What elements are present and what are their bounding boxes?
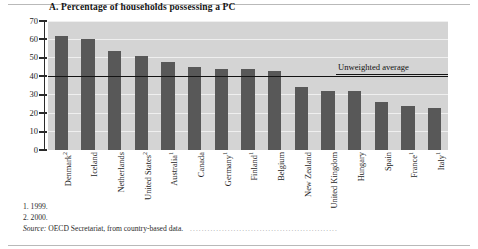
footnote-1: 1. 1999. (23, 202, 463, 213)
bar (321, 91, 335, 150)
source-text: OECD Secretariat, from country-based dat… (48, 224, 183, 233)
y-axis-tick-label: 50 (12, 53, 38, 62)
x-axis-tick-label: Australia1 (171, 152, 179, 186)
x-axis-tick-label: Iceland (91, 152, 99, 177)
gridline (48, 21, 448, 22)
y-axis-tick-label: 60 (12, 35, 38, 44)
page-title: A. Percentage of households possessing a… (49, 2, 236, 12)
bar (375, 102, 389, 150)
y-axis-tick-label: 40 (12, 72, 38, 81)
bar (241, 69, 255, 150)
footnote-marker: 1 (168, 152, 174, 155)
footnote-marker: 2 (142, 152, 148, 155)
gridline (48, 39, 448, 40)
x-axis-tick-label: Denmark2 (65, 152, 73, 186)
bar (108, 51, 122, 151)
y-axis-tick-label: 10 (12, 127, 38, 136)
figure-panel: A. Percentage of households possessing a… (0, 0, 478, 249)
bar (348, 91, 362, 150)
footnote-marker: 2 (62, 152, 68, 155)
bar (215, 69, 229, 150)
dotted-leader: ........................................… (190, 224, 338, 234)
y-axis-tick (39, 131, 47, 133)
y-axis-tick-label: 20 (12, 109, 38, 118)
x-axis-tick-label: Spain (385, 152, 393, 171)
y-axis-tick-label: 70 (12, 17, 38, 26)
footnote-marker: 1 (435, 152, 441, 155)
x-axis-tick-label: Canada (198, 152, 206, 177)
source-keyword: Source: (23, 224, 46, 233)
y-axis-labels: 010203040506070 (8, 21, 38, 151)
y-axis-tick (39, 149, 47, 151)
x-axis-tick-label: Netherlands (118, 152, 126, 192)
y-axis-tick (39, 75, 47, 77)
plot-area (48, 21, 448, 150)
x-axis-tick-label: Belgium (278, 152, 286, 181)
y-axis-tick (39, 94, 47, 96)
y-axis-tick (39, 38, 47, 40)
footnotes: 1. 1999. 2. 2000. Source: OECD Secretari… (23, 202, 463, 234)
footnote-2: 2. 2000. (23, 213, 463, 224)
x-axis-tick-label: Hungary (358, 152, 366, 181)
y-axis-tick-label: 0 (12, 146, 38, 155)
x-axis-tick-label: Italy1 (438, 152, 446, 170)
average-label-leader (336, 74, 448, 75)
bar (161, 62, 175, 150)
bar (268, 71, 282, 150)
footnote-marker: 1 (248, 152, 254, 155)
y-axis-tick (39, 20, 47, 22)
y-axis-tick-label: 30 (12, 90, 38, 99)
x-axis-tick-label: France1 (411, 152, 419, 178)
bar (428, 108, 442, 150)
unweighted-average-line (48, 76, 448, 77)
source-note: Source: OECD Secretariat, from country-b… (23, 224, 463, 235)
x-axis-tick-label: United Kingdom (331, 152, 339, 209)
bar (135, 56, 149, 150)
x-axis-labels: Denmark2IcelandNetherlandsUnited States2… (48, 152, 448, 208)
y-axis-tick (39, 112, 47, 114)
bar (81, 39, 95, 150)
x-axis-tick-label: United States2 (145, 152, 153, 200)
average-annotation-label: Unweighted average (338, 62, 409, 72)
bar (295, 87, 309, 150)
footnote-marker: 1 (408, 152, 414, 155)
figure-bottom-rule (8, 245, 470, 246)
bar (188, 67, 202, 150)
plot-wrapper: 010203040506070 Unweighted average Denma… (0, 18, 478, 208)
footnote-marker: 1 (222, 152, 228, 155)
bar (401, 106, 415, 150)
y-axis-tick (39, 57, 47, 59)
x-axis-tick-label: Germany1 (225, 152, 233, 186)
x-axis-tick-label: Finland1 (251, 152, 259, 181)
x-axis-tick-label: New Zealand (305, 152, 313, 197)
bar (55, 36, 69, 150)
